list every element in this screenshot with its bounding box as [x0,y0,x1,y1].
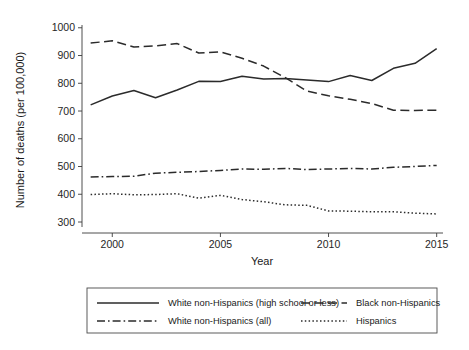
y-tick-label: 900 [57,49,75,61]
y-axis-title: Number of deaths (per 100,000) [14,52,26,209]
chart-figure: 3004005006007008009001000 20002005201020… [0,0,469,350]
y-axis-ticks: 3004005006007008009001000 [52,21,82,227]
series-line [91,41,437,111]
x-axis-group: 2000200520102015 [82,233,449,250]
line-chart: 3004005006007008009001000 20002005201020… [0,0,469,350]
y-axis-group: 3004005006007008009001000 [52,21,82,227]
series-line [91,165,437,177]
y-tick-label: 400 [57,188,75,200]
y-tick-label: 300 [57,216,75,228]
x-axis-ticks: 2000200520102015 [101,233,449,250]
x-axis-title: Year [251,255,274,267]
legend-label: White non-Hispanics (all) [168,316,271,326]
y-tick-label: 600 [57,132,75,144]
plot-series-group [91,41,437,214]
y-tick-label: 800 [57,77,75,89]
legend-label: Hispanics [356,316,397,326]
x-tick-label: 2005 [209,238,233,250]
y-tick-label: 500 [57,160,75,172]
series-line [91,49,437,105]
y-tick-label: 1000 [52,21,76,33]
legend: White non-Hispanics (high school or less… [87,288,441,333]
series-line [91,194,437,214]
x-tick-label: 2010 [317,238,341,250]
legend-label: Black non-Hispanics [356,298,441,308]
x-tick-label: 2000 [101,238,125,250]
legend-label: White non-Hispanics (high school or less… [168,298,339,308]
y-tick-label: 700 [57,105,75,117]
x-tick-label: 2015 [425,238,449,250]
legend-entries: White non-Hispanics (high school or less… [97,298,441,326]
